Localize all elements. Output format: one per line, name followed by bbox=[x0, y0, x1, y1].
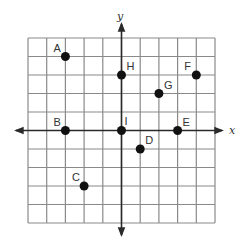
point-dot bbox=[154, 89, 163, 98]
point-label: C bbox=[72, 171, 80, 183]
point-d: D bbox=[136, 134, 154, 154]
point-label: A bbox=[53, 42, 61, 54]
point-label: D bbox=[145, 134, 153, 146]
point-f: F bbox=[184, 60, 201, 80]
y-axis-label: y bbox=[116, 10, 124, 23]
point-g: G bbox=[154, 79, 172, 99]
point-label: I bbox=[125, 115, 128, 127]
point-label: G bbox=[164, 79, 173, 91]
point-label: F bbox=[184, 60, 191, 72]
point-a: A bbox=[53, 42, 70, 62]
point-e: E bbox=[173, 116, 190, 136]
point-h: H bbox=[117, 60, 135, 80]
points: ABCDEFGHI bbox=[53, 42, 200, 191]
point-b: B bbox=[53, 116, 70, 136]
point-label: H bbox=[127, 60, 135, 72]
point-dot bbox=[80, 182, 89, 191]
point-c: C bbox=[72, 171, 89, 191]
x-axis-label: x bbox=[229, 124, 236, 137]
point-dot bbox=[192, 71, 201, 80]
point-dot bbox=[117, 71, 126, 80]
point-dot bbox=[136, 145, 145, 154]
coordinate-plane: x y ABCDEFGHI bbox=[0, 0, 244, 238]
point-dot bbox=[117, 126, 126, 135]
point-label: E bbox=[183, 116, 190, 128]
point-dot bbox=[173, 126, 182, 135]
point-dot bbox=[61, 126, 70, 135]
point-label: B bbox=[53, 116, 60, 128]
point-dot bbox=[61, 52, 70, 61]
